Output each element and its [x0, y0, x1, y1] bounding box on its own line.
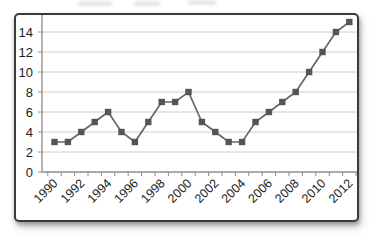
data-point-marker	[65, 139, 71, 145]
data-point-marker	[172, 99, 178, 105]
x-tick-label: 2010	[299, 176, 329, 206]
x-tick-label: 2012	[326, 176, 356, 206]
data-point-marker	[319, 49, 325, 55]
y-tick-label: 6	[26, 105, 33, 120]
x-tick-label: 2002	[192, 176, 222, 206]
data-point-marker	[279, 99, 285, 105]
data-point-marker	[132, 139, 138, 145]
x-tick-label: 2006	[245, 176, 275, 206]
data-point-marker	[199, 119, 205, 125]
x-tick-label: 1996	[111, 176, 141, 206]
scan-artifact	[188, 0, 216, 5]
x-tick-label: 2004	[219, 176, 249, 206]
line-chart: 0246810121419901992199419961998200020022…	[16, 15, 357, 220]
data-point-marker	[293, 89, 299, 95]
data-point-marker	[51, 139, 57, 145]
data-point-marker	[92, 119, 98, 125]
x-tick-label: 1990	[31, 176, 61, 206]
data-point-marker	[105, 109, 111, 115]
scan-artifact	[134, 1, 160, 6]
data-point-marker	[185, 89, 191, 95]
data-point-marker	[78, 129, 84, 135]
scan-artifact	[78, 1, 112, 6]
y-tick-label: 2	[26, 145, 33, 160]
data-point-marker	[159, 99, 165, 105]
data-point-marker	[252, 119, 258, 125]
x-tick-label: 1998	[138, 176, 168, 206]
data-point-marker	[333, 29, 339, 35]
data-point-marker	[212, 129, 218, 135]
x-tick-label: 1992	[58, 176, 88, 206]
y-tick-label: 12	[19, 45, 33, 60]
data-point-marker	[239, 139, 245, 145]
page-background: 0246810121419901992199419961998200020022…	[0, 0, 375, 237]
x-tick-label: 1994	[85, 176, 115, 206]
data-point-marker	[118, 129, 124, 135]
x-tick-label: 2000	[165, 176, 195, 206]
chart-panel: 0246810121419901992199419961998200020022…	[14, 13, 359, 222]
data-point-marker	[266, 109, 272, 115]
data-point-marker	[306, 69, 312, 75]
data-point-marker	[346, 19, 352, 25]
data-point-marker	[145, 119, 151, 125]
data-point-marker	[226, 139, 232, 145]
x-tick-label: 2008	[272, 176, 302, 206]
y-tick-label: 14	[19, 25, 33, 40]
y-tick-label: 4	[26, 125, 33, 140]
y-tick-label: 8	[26, 85, 33, 100]
y-tick-label: 0	[26, 165, 33, 180]
y-tick-label: 10	[19, 65, 33, 80]
